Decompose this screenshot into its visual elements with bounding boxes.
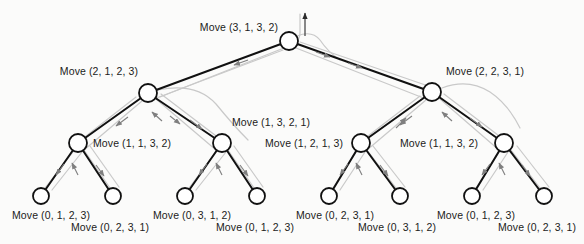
label-leaf-5: Move (0, 2, 3, 1) bbox=[296, 209, 374, 221]
recursion-tree-diagram: Move (3, 1, 3, 2) Move (2, 1, 2, 3) Move… bbox=[0, 0, 584, 244]
label-leaf-6: Move (0, 3, 1, 2) bbox=[358, 221, 436, 233]
label-root: Move (3, 1, 3, 2) bbox=[200, 21, 278, 33]
label-node-level2-4: Move (1, 1, 3, 2) bbox=[400, 137, 478, 149]
label-leaf-2: Move (0, 2, 3, 1) bbox=[71, 221, 149, 233]
label-leaf-7: Move (0, 1, 2, 3) bbox=[437, 209, 515, 221]
label-leaf-1: Move (0, 1, 2, 3) bbox=[12, 209, 90, 221]
label-node-level1-right: Move (2, 2, 3, 1) bbox=[446, 65, 524, 77]
label-node-level2-2: Move (1, 3, 2, 1) bbox=[232, 116, 310, 128]
label-layer: Move (3, 1, 3, 2) Move (2, 1, 2, 3) Move… bbox=[0, 0, 584, 244]
label-leaf-4: Move (0, 1, 2, 3) bbox=[216, 221, 294, 233]
label-node-level1-left: Move (2, 1, 2, 3) bbox=[60, 65, 138, 77]
label-node-level2-1: Move (1, 1, 3, 2) bbox=[93, 137, 171, 149]
label-leaf-3: Move (0, 3, 1, 2) bbox=[153, 209, 231, 221]
label-leaf-8: Move (0, 2, 3, 1) bbox=[498, 221, 576, 233]
label-node-level2-3: Move (1, 2, 1, 3) bbox=[265, 137, 343, 149]
